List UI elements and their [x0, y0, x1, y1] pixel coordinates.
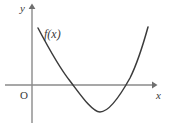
figure-canvas — [0, 0, 169, 123]
function-curve-label: f(x) — [44, 28, 61, 40]
y-axis-label: y — [20, 3, 25, 14]
y-axis-arrow-icon — [29, 4, 36, 10]
x-axis-label: x — [156, 90, 161, 101]
parabola-figure: y x O f(x) — [0, 0, 169, 123]
x-axis-arrow-icon — [152, 81, 158, 88]
origin-label: O — [20, 90, 28, 101]
